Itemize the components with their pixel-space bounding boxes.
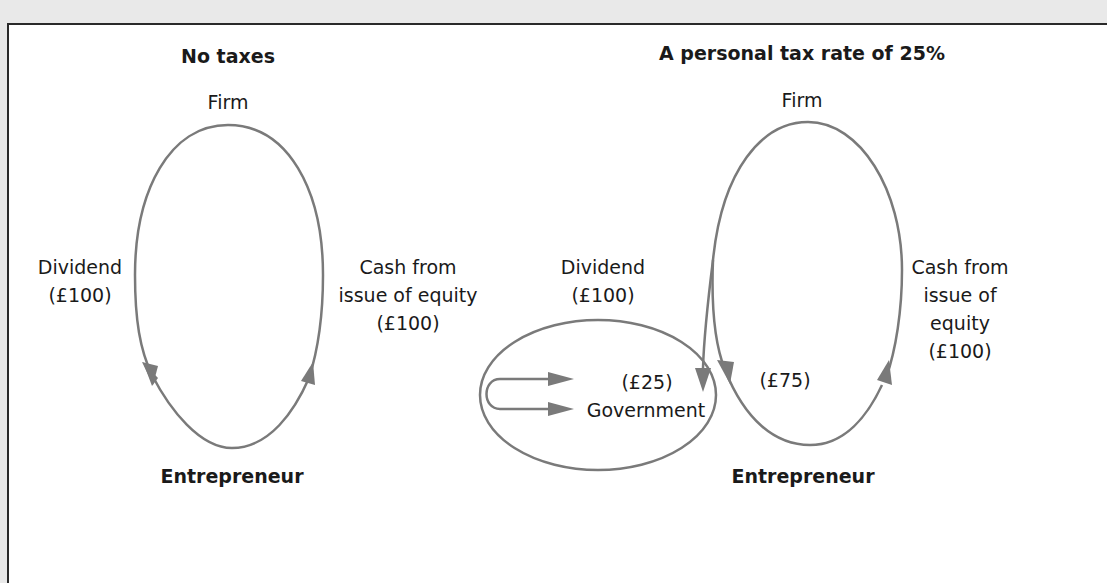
net-branch-line [713, 260, 883, 445]
government-loop-line [487, 379, 549, 409]
government-label: Government [587, 398, 706, 422]
right-cycle [695, 122, 902, 445]
panel-title-no-taxes: No taxes [181, 44, 275, 68]
tax-arrowhead-icon [695, 368, 711, 392]
dividend-label-right: Dividend [561, 255, 645, 279]
equity-label-line1-left: Cash from [359, 255, 456, 279]
entrepreneur-loop-line [152, 375, 309, 448]
equity-flow-line-right [713, 122, 902, 378]
equity-label-line1-right: Cash from [911, 255, 1008, 279]
government-ellipse [480, 320, 716, 470]
net-amount-label: (£75) [759, 368, 810, 392]
node-entrepreneur-left: Entrepreneur [160, 464, 303, 488]
equity-label-line2-left: issue of equity [339, 283, 478, 307]
dividend-label-left: Dividend [38, 255, 122, 279]
left-cycle [135, 125, 323, 448]
net-arrowhead-icon [717, 360, 734, 384]
dividend-amount-right: (£100) [571, 283, 634, 307]
node-entrepreneur-right: Entrepreneur [731, 464, 874, 488]
government-amount: (£25) [621, 370, 672, 394]
government-arrowhead-bottom-icon [548, 402, 574, 416]
government-arrowhead-top-icon [548, 372, 574, 386]
panel-title-personal-tax: A personal tax rate of 25% [659, 41, 945, 65]
dividend-amount-left: (£100) [48, 283, 111, 307]
node-firm-left: Firm [208, 90, 249, 114]
equity-amount-left: (£100) [376, 311, 439, 335]
equity-flow-line [228, 125, 323, 378]
node-firm-right: Firm [782, 88, 823, 112]
dividend-flow-line [135, 125, 228, 375]
equity-amount-right: (£100) [928, 339, 991, 363]
equity-label-line3-right: equity [930, 311, 990, 335]
equity-label-line2-right: issue of [923, 283, 996, 307]
